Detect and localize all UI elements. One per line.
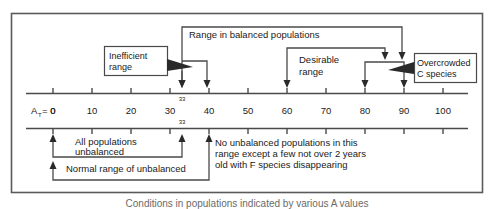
inefficient-arrow-left [179, 80, 186, 88]
normal-range-arrow-left [50, 161, 57, 169]
tick-label-40: 40 [204, 105, 215, 116]
overcrowded-line2: C species [417, 69, 457, 79]
annotation-inefficient-range: Inefficient range [105, 47, 211, 89]
annotation-all-populations-unbalanced: All populations unbalanced [50, 134, 186, 157]
tick-label-60: 60 [282, 105, 293, 116]
tick-label-50: 50 [243, 105, 254, 116]
annotation-desirable-range: Desirable range [284, 48, 389, 88]
inefficient-bracket [182, 61, 207, 86]
diagram-canvas: A T = 0 0 10 20 30 40 50 60 70 80 90 100… [0, 0, 495, 209]
desirable-arrow-left [284, 80, 291, 88]
inefficient-range-line2: range [109, 62, 132, 72]
inefficient-range-line1: Inefficient [109, 51, 148, 61]
desirable-range-line2: range [299, 66, 323, 77]
desirable-arrow-right [382, 52, 389, 60]
overcrowded-arrow-right [401, 80, 408, 88]
range-balanced-arrow-right [399, 52, 406, 60]
no-unbal-line1: No unbalanced populations in this [215, 137, 358, 148]
overcrowded-line1: Overcrowded [417, 58, 471, 68]
bottom-axis-group [26, 129, 468, 135]
all-pop-arrow-right [179, 134, 186, 142]
no-unbal-line3: old with F species disappearing [215, 159, 348, 170]
overcrowded-pointer [388, 62, 414, 74]
annotation-overcrowded-c-species: Overcrowded C species [362, 54, 477, 89]
axis-tick-labels: A T = 0 0 10 20 30 40 50 60 70 80 90 100… [31, 96, 451, 125]
all-pop-arrow-left [50, 134, 57, 142]
tick-label-10: 10 [87, 105, 98, 116]
tick-label-90: 90 [399, 105, 410, 116]
tick-label-0: 0 [50, 105, 55, 116]
annotation-no-unbalanced-populations: No unbalanced populations in this range … [215, 137, 366, 170]
no-unbal-line2: range except a few not over 2 years [215, 148, 366, 159]
tick-label-70: 70 [321, 105, 332, 116]
normal-range-arrow-right [206, 134, 213, 142]
mark-33-above: 33 [179, 96, 186, 102]
mark-33-below: 33 [179, 119, 186, 125]
normal-range-label: Normal range of unbalanced [66, 163, 186, 174]
figure-container: A T = 0 0 10 20 30 40 50 60 70 80 90 100… [0, 0, 495, 209]
desirable-range-line1: Desirable [299, 54, 339, 65]
all-pop-line2: unbalanced [75, 146, 124, 157]
axis-label-a: A [31, 105, 38, 116]
tick-label-20: 20 [126, 105, 137, 116]
range-balanced-label: Range in balanced populations [189, 29, 320, 40]
overcrowded-bracket [365, 62, 404, 86]
annotation-range-in-balanced-populations: Range in balanced populations [179, 27, 406, 88]
top-axis-group [26, 88, 468, 94]
tick-label-100: 100 [435, 105, 451, 116]
tick-label-30: 30 [165, 105, 176, 116]
overcrowded-arrow-left [362, 80, 369, 88]
figure-caption: Conditions in populations indicated by v… [126, 198, 369, 209]
inefficient-arrow-right [204, 80, 211, 88]
tick-label-80: 80 [360, 105, 371, 116]
